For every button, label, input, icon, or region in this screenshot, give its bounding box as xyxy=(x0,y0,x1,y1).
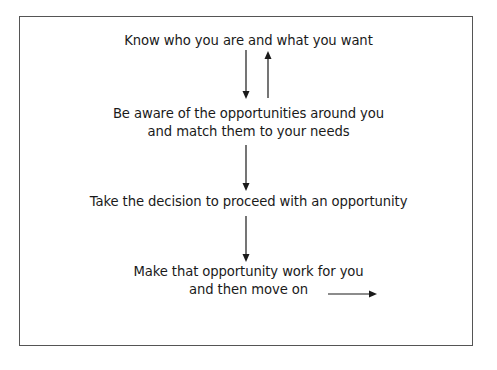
arrow-down-icon xyxy=(243,216,250,262)
arrow-down-icon xyxy=(243,145,250,191)
arrow-right-icon xyxy=(328,291,377,298)
arrow-up-icon xyxy=(265,51,272,98)
connector-arrows xyxy=(0,0,497,370)
arrow-down-icon xyxy=(243,50,250,99)
